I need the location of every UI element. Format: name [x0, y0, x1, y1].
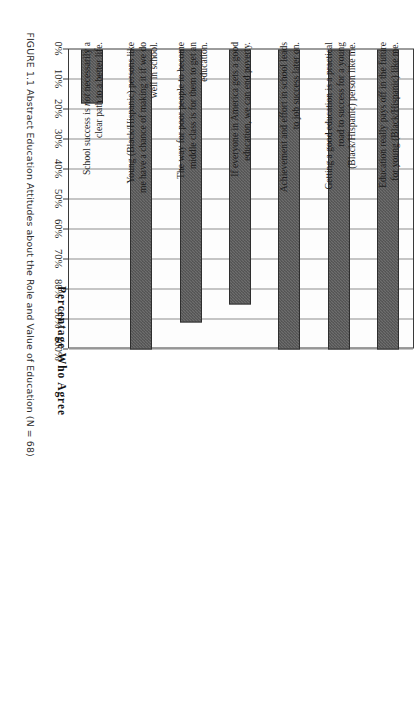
bar: [130, 49, 152, 349]
plot-area: [68, 48, 414, 348]
gridline: [69, 318, 413, 319]
figure-caption: FIGURE 1.1 Abstract Education Attitudes …: [25, 0, 36, 701]
bar: [81, 49, 103, 103]
bar: [180, 49, 202, 322]
axis-title: Percentage Who Agree: [56, 0, 68, 701]
bar: [328, 49, 350, 349]
gridline: [69, 348, 413, 349]
figure-stage: 0%10%20%30%40%50%60%70%80%90%100% Percen…: [0, 0, 420, 701]
bar: [229, 49, 251, 304]
bar: [377, 49, 399, 349]
bar: [278, 49, 300, 349]
